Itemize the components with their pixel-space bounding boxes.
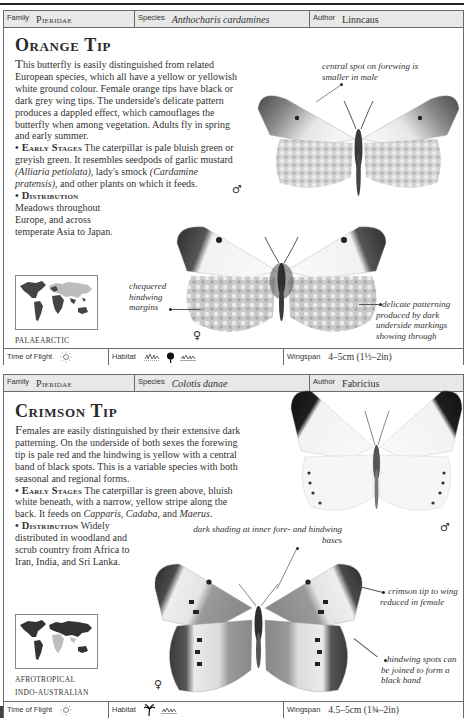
entry-header: Family Pieridae Species Anthocharis card… xyxy=(4,11,463,28)
male-butterfly-image xyxy=(256,79,461,197)
region-label: PALAEARCTIC xyxy=(15,335,69,347)
distribution-text: Meadows throughout Europe, and across te… xyxy=(15,202,115,238)
world-map-icon xyxy=(16,615,97,668)
caption-male-spot: central spot on forewing is smaller in m… xyxy=(322,61,447,82)
sun-icon xyxy=(60,704,72,716)
wingspan-cell: Wingspan 4.5–5cm (1¾–2in) xyxy=(284,702,463,718)
range-map xyxy=(15,614,98,669)
family-cell: Family Pieridae xyxy=(4,375,135,391)
species-cell: Species Anthocharis cardamines xyxy=(135,11,310,27)
author-cell: Author Linncaus xyxy=(310,11,463,27)
plant-name: Capparis xyxy=(84,508,121,519)
world-map-icon xyxy=(16,276,97,329)
plant-name: Maerus xyxy=(179,508,210,519)
wingspan-value: 4–5cm (1½–2in) xyxy=(328,352,391,362)
species-value: Colotis danae xyxy=(172,378,228,389)
early-stages-paragraph: • Early Stages The caterpillar is green … xyxy=(15,485,241,521)
species-description: This butterfly is easily distinguished f… xyxy=(15,58,237,238)
female-symbol: ♀ xyxy=(193,329,201,342)
species-cell: Species Colotis danae xyxy=(135,375,310,391)
caption-dark-shading: dark shading at inner fore- and hindwing… xyxy=(192,524,342,545)
female-butterfly-image xyxy=(169,221,394,346)
sun-icon xyxy=(60,351,72,363)
early-stages-heading: • Early Stages xyxy=(15,485,82,496)
meadow-icon xyxy=(144,352,160,362)
intro-paragraph: This butterfly is easily distinguished f… xyxy=(15,58,237,142)
early-stages-text: , lady's smock xyxy=(91,166,150,177)
early-stages-text: , and other plants on which it feeds. xyxy=(55,178,197,189)
time-of-flight-label: Time of Flight xyxy=(7,352,52,361)
meadow-icon xyxy=(161,705,177,715)
leader-line-chequered xyxy=(171,309,201,310)
wingspan-cell: Wingspan 4–5cm (1½–2in) xyxy=(284,349,463,365)
intro-text: his butterfly is easily distinguished fr… xyxy=(15,59,237,141)
species-entry-crimson-tip: Family Pieridae Species Colotis danae Au… xyxy=(3,374,464,718)
species-entry-orange-tip: Family Pieridae Species Anthocharis card… xyxy=(3,10,464,365)
range-map xyxy=(15,275,98,330)
wingspan-label: Wingspan xyxy=(287,705,320,714)
wingspan-label: Wingspan xyxy=(287,352,320,361)
species-title: Crimson Tip xyxy=(15,401,117,422)
distribution-heading: • Distribution xyxy=(15,520,78,531)
habitat-cell: Habitat xyxy=(109,702,284,718)
region-label: AFROTROPICAL xyxy=(15,674,75,686)
female-butterfly-image xyxy=(151,558,366,698)
female-symbol: ♀ xyxy=(154,678,162,691)
early-stages-text: , and xyxy=(158,508,180,519)
tree-icon xyxy=(166,352,175,363)
distribution-heading: • Distribution xyxy=(15,190,78,201)
distribution-heading-line: • Distribution xyxy=(15,190,237,202)
male-symbol: ♂ xyxy=(440,521,450,534)
page-edge-mark xyxy=(0,706,3,718)
meadow-icon xyxy=(180,352,196,362)
family-value: Pieridae xyxy=(36,378,72,389)
male-symbol: ♂ xyxy=(232,183,242,196)
family-cell: Family Pieridae xyxy=(4,11,135,27)
plant-name: Cadaba xyxy=(126,508,158,519)
family-label: Family xyxy=(7,377,29,386)
intro-paragraph: Females are easily distinguished by thei… xyxy=(15,424,241,485)
caption-hindwing-spots: hindwing spots can be joined to form a b… xyxy=(381,654,465,686)
page-top-rule xyxy=(0,3,464,5)
drop-cap: T xyxy=(15,56,23,71)
plant-name: (Alliaria petiolata) xyxy=(15,166,91,177)
species-label: Species xyxy=(138,13,165,22)
early-stages-paragraph: • Early Stages The caterpillar is pale b… xyxy=(15,142,237,190)
intro-text: emales are easily distinguished by their… xyxy=(15,425,240,484)
leader-line-male-spot xyxy=(314,84,344,104)
family-value: Pieridae xyxy=(36,14,72,25)
region-label: INDO-AUSTRALIAN xyxy=(15,687,89,699)
author-value: Linncaus xyxy=(342,14,379,25)
time-of-flight-label: Time of Flight xyxy=(7,705,52,714)
caption-delicate: delicate patterning produced by dark und… xyxy=(376,299,456,341)
entry-footer: Time of Flight Habitat Wingspan 4–5cm (1… xyxy=(4,348,463,365)
habitat-cell: Habitat xyxy=(109,349,284,365)
entry-footer: Time of Flight Habitat Wingspan 4.5–5cm … xyxy=(4,701,463,718)
author-label: Author xyxy=(313,13,335,22)
time-of-flight-cell: Time of Flight xyxy=(4,702,109,718)
palm-tree-icon xyxy=(144,704,155,716)
species-value: Anthocharis cardamines xyxy=(172,14,270,25)
male-butterfly-image xyxy=(289,385,464,515)
early-stages-text: . xyxy=(210,508,213,519)
family-label: Family xyxy=(7,13,29,22)
caption-crimson: crimson tip to wing reduced in female xyxy=(380,586,464,607)
habitat-label: Habitat xyxy=(112,352,136,361)
early-stages-heading: • Early Stages xyxy=(15,142,82,153)
species-label: Species xyxy=(138,377,165,386)
wingspan-value: 4.5–5cm (1¾–2in) xyxy=(328,705,398,715)
habitat-label: Habitat xyxy=(112,705,136,714)
distribution-paragraph: • Distribution Widely distributed in woo… xyxy=(15,520,145,568)
species-title: Orange Tip xyxy=(15,35,111,56)
species-description: Females are easily distinguished by thei… xyxy=(15,424,241,568)
caption-chequered: chequered hindwing margins xyxy=(129,281,184,313)
leader-dot xyxy=(340,83,343,86)
time-of-flight-cell: Time of Flight xyxy=(4,349,109,365)
